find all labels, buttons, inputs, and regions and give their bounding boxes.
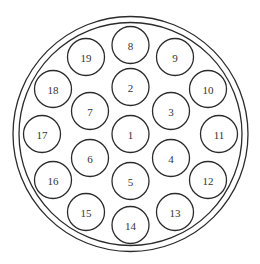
pin-6: 6 — [72, 140, 109, 177]
pin-label: 5 — [128, 176, 134, 188]
pin-12: 12 — [190, 162, 227, 199]
pin-8: 8 — [112, 27, 149, 64]
pin-label: 18 — [48, 84, 60, 96]
pin-2: 2 — [112, 69, 149, 106]
pin-label: 9 — [172, 52, 178, 64]
pin-label: 19 — [81, 52, 93, 64]
pin-16: 16 — [35, 162, 72, 199]
pin-label: 1 — [128, 129, 134, 141]
pin-label: 11 — [214, 129, 225, 141]
pin-15: 15 — [68, 194, 105, 231]
pin-3: 3 — [153, 93, 190, 130]
pin-label: 6 — [87, 153, 93, 165]
pin-label: 15 — [81, 207, 93, 219]
pin-label: 7 — [87, 106, 93, 118]
pin-label: 4 — [168, 153, 174, 165]
pin-label: 16 — [48, 175, 60, 187]
pin-13: 13 — [157, 194, 194, 231]
pin-label: 13 — [170, 207, 182, 219]
pin-9: 9 — [157, 39, 194, 76]
pin-5: 5 — [112, 163, 149, 200]
pin-label: 12 — [203, 175, 214, 187]
connector-diagram: 12345678910111213141516171819 — [0, 0, 260, 264]
pin-11: 11 — [201, 116, 238, 153]
pin-10: 10 — [190, 71, 227, 108]
pin-label: 10 — [203, 84, 215, 96]
pin-17: 17 — [24, 116, 61, 153]
pin-group: 12345678910111213141516171819 — [24, 27, 238, 244]
pin-4: 4 — [153, 140, 190, 177]
pin-1: 1 — [112, 116, 149, 153]
pin-14: 14 — [112, 207, 149, 244]
pin-label: 2 — [128, 82, 134, 94]
pin-7: 7 — [72, 93, 109, 130]
pin-label: 8 — [128, 40, 134, 52]
pin-label: 3 — [168, 106, 174, 118]
pin-label: 17 — [37, 129, 49, 141]
pin-19: 19 — [68, 39, 105, 76]
pin-label: 14 — [125, 220, 137, 232]
pin-18: 18 — [35, 71, 72, 108]
